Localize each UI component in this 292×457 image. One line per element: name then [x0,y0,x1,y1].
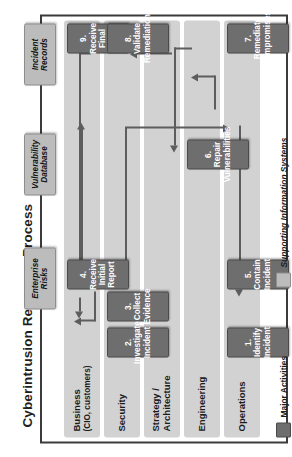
arrowhead-5-to-6 [191,73,198,81]
legend: Major Activities Supporting Information … [276,17,284,437]
activity-number: 5. Contain [244,259,263,289]
system-label-line1: Vulnerability [31,140,40,189]
lane-label-operations: Operations [224,345,260,431]
connector-9-to-incident-records [79,297,81,311]
activity-name: Incident [263,326,272,357]
poster: Cyberintrusion Response Process Enterpri… [18,0,284,457]
activity-name: Initial Report [98,261,117,287]
activity-name: Incident [143,326,152,357]
system-vulnerability-database: Vulnerability Database [24,133,56,195]
activity-2-investigate-incident[interactable]: 2. Investigate Incident [107,327,169,357]
activity-number: 7. Remediate [244,17,263,58]
legend-swatch-supporting-systems-icon [276,272,284,287]
activity-4-receive-initial-report[interactable]: 4. Receive Initial Report [67,259,129,289]
system-label-line2: Risks [40,267,49,289]
activity-name: Compromises [263,11,272,66]
connector-6-to-vulndb-v [174,47,192,49]
system-incident-records: Incident Records [24,23,56,85]
legend-label-major-activities: Major Activities [279,355,285,417]
system-label-line2: Records [40,38,49,71]
lane-label-engineering: Engineering [184,345,220,431]
arrowhead-1-to-2 [235,289,243,296]
connector-6-to-vulndb-h [174,47,176,145]
system-label-line1: Enterprise [31,258,40,299]
lane-label-text: Business [72,345,83,431]
system-enterprise-risks: Enterprise Risks [24,247,56,309]
system-label-line1: Incident [31,38,40,69]
activity-number: 6. Repair [204,141,223,166]
connector-4-to-5-h [81,127,83,277]
connector-3-to-1-h [125,127,127,275]
lane-label-text: Engineering [197,345,208,431]
legend-item-supporting-systems: Supporting Information Systems [276,137,284,287]
legend-swatch-major-activities-icon [276,422,284,437]
legend-label-supporting-systems: Supporting Information Systems [279,137,285,267]
activity-8-validate-remediation[interactable]: 8. Validate Remediation [107,23,169,53]
connector-5-to-6-h [214,75,216,109]
activity-name: Incident [263,258,272,289]
lane-label-business: Business (CIO, customers) [64,345,100,431]
activity-6-repair-vulnerabilities[interactable]: 6. Repair Vulnerabilities [187,139,249,169]
rotated-diagram-canvas: Cyberintrusion Response Process Enterpri… [18,0,284,457]
activity-name: Remediation [143,13,152,62]
lane-label-text: Operations [237,345,248,431]
arrowhead-9-to-incident-records [75,311,83,318]
activity-number: 1. Identify [244,327,263,356]
activity-number: 9. Receive [79,23,98,54]
swimlane-group: Business (CIO, customers) Security Strat… [64,20,272,437]
activity-number: 8. Validate [124,23,143,54]
activity-name: Vulnerabilities [223,126,232,182]
activity-name: Evidence [143,288,152,324]
activity-3-collect-evidence[interactable]: 3. Collect Evidence [107,291,169,321]
page-title: Cyberintrusion Response Process [20,27,35,427]
connector-7-to-8 [79,53,81,261]
lane-label-sub: Architecture [162,345,173,431]
connector-5-to-6-v [197,75,215,77]
activity-number: 2. Investigate [124,321,143,364]
arrowhead-6-to-vulndb [170,145,178,152]
connector-3-to-4-h [94,291,96,321]
legend-item-major-activities: Major Activities [276,355,284,437]
activity-number: 3. Collect [124,292,143,319]
connector-3-to-4-v [80,319,95,321]
activity-number: 4. Receive [79,259,98,290]
system-label-line2: Database [40,146,49,182]
lane-label-sub: (CIO, customers) [83,345,92,431]
